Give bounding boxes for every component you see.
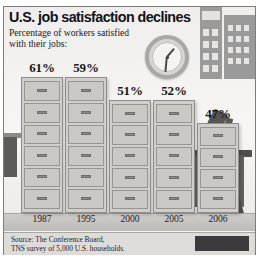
x-tick-2000: 2000 <box>109 214 151 224</box>
cabinet-drawer <box>112 168 148 187</box>
bar-value-label-2006: 47% <box>197 106 239 122</box>
cabinet-drawer <box>112 125 148 144</box>
cabinet-drawer <box>24 125 60 145</box>
x-axis-labels: 19871995200020052006 <box>4 213 255 227</box>
bar-value-label-2005: 52% <box>153 83 195 99</box>
cabinet-drawer <box>156 147 192 166</box>
bar-value-label-1995: 59% <box>65 60 107 76</box>
cabinet-drawer <box>24 168 60 188</box>
x-tick-2005: 2005 <box>153 214 195 224</box>
page-title: U.S. job satisfaction declines <box>9 9 164 26</box>
bar-value-label-2000: 51% <box>109 83 151 99</box>
cabinet-drawer <box>156 125 192 144</box>
infographic-page: 61%59%51%52%47% 19871995200020052006 U.S… <box>0 0 260 263</box>
cabinet-drawer <box>156 168 192 187</box>
cabinet-drawer <box>156 190 192 209</box>
bar-cabinet-2000 <box>109 100 151 213</box>
cabinet-drawer <box>200 190 236 209</box>
bar-value-label-1987: 61% <box>21 60 63 76</box>
cabinet-drawer <box>68 81 104 101</box>
source-block: Source: The Conference Board, TNS survey… <box>4 232 255 255</box>
x-tick-1987: 1987 <box>21 214 63 224</box>
cabinet-drawer <box>68 125 104 145</box>
cabinet-drawer <box>68 168 104 188</box>
bar-cabinet-1995 <box>65 77 107 213</box>
cabinet-drawer <box>112 190 148 209</box>
cabinet-drawer <box>24 81 60 101</box>
bar-cabinet-1987 <box>21 77 63 213</box>
cabinet-drawer <box>24 146 60 166</box>
cabinet-drawer <box>200 127 236 146</box>
cabinet-drawer <box>200 169 236 188</box>
cabinet-drawer <box>68 146 104 166</box>
source-dark-swatch <box>195 236 249 251</box>
headline-block: U.S. job satisfaction declines Percentag… <box>4 7 164 49</box>
x-tick-1995: 1995 <box>65 214 107 224</box>
bar-cabinet-2006 <box>197 123 239 213</box>
cabinet-drawer <box>68 189 104 209</box>
x-tick-2006: 2006 <box>197 214 239 224</box>
bar-cabinet-2005 <box>153 100 195 213</box>
cabinet-drawer <box>200 148 236 167</box>
cabinet-drawer <box>24 103 60 123</box>
credit-strip <box>3 256 256 263</box>
cabinet-drawer <box>112 104 148 123</box>
cabinet-drawer <box>24 189 60 209</box>
cabinet-drawer <box>112 147 148 166</box>
cabinet-drawer <box>156 104 192 123</box>
chart-subtitle: Percentage of workers satisfied with the… <box>9 28 137 49</box>
cabinet-drawer <box>68 103 104 123</box>
